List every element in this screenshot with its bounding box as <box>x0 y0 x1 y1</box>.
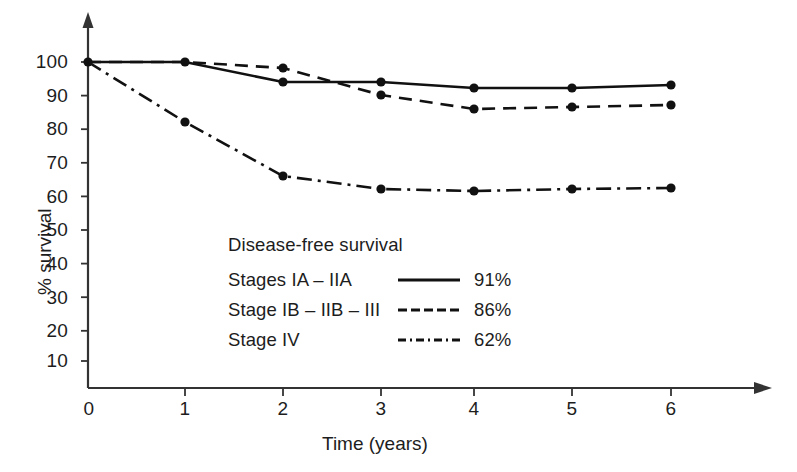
y-axis-title: % survival <box>34 208 56 295</box>
x-tick-label-1: 1 <box>170 398 200 420</box>
y-tick-label-90: 90 <box>22 85 68 107</box>
legend-line-sample-dashed-icon <box>396 301 462 319</box>
x-tick-label-6: 6 <box>656 398 686 420</box>
y-tick-label-10: 10 <box>22 350 68 372</box>
legend-row-stage-iv: Stage IV 62% <box>228 325 511 355</box>
legend-line-sample-solid-icon <box>396 271 462 289</box>
x-tick-label-0: 0 <box>74 398 104 420</box>
y-tick-label-20: 20 <box>22 320 68 342</box>
legend-label-stage-iv: Stage IV <box>228 329 396 351</box>
x-axis-ticks <box>185 388 671 396</box>
y-tick-label-100: 100 <box>22 51 68 73</box>
legend-value-stage-ib-iib-iii: 86% <box>474 299 511 321</box>
x-tick-label-3: 3 <box>366 398 396 420</box>
legend-value-stages-ia-iia: 91% <box>474 269 511 291</box>
y-tick-label-80: 80 <box>22 118 68 140</box>
survival-chart-figure: 100 90 80 70 60 50 40 30 20 10 0 1 2 3 4… <box>0 0 797 472</box>
y-tick-label-60: 60 <box>22 186 68 208</box>
legend-line-sample-dash-dot-icon <box>396 331 462 349</box>
legend: Disease-free survival Stages IA – IIA 91… <box>228 234 511 355</box>
x-axis-title: Time (years) <box>322 433 428 455</box>
x-tick-label-2: 2 <box>268 398 298 420</box>
legend-row-stage-ib-iib-iii: Stage IB – IIB – III 86% <box>228 295 511 325</box>
legend-row-stages-ia-iia: Stages IA – IIA 91% <box>228 265 511 295</box>
legend-label-stage-ib-iib-iii: Stage IB – IIB – III <box>228 299 396 321</box>
y-tick-label-70: 70 <box>22 152 68 174</box>
legend-title: Disease-free survival <box>228 234 511 256</box>
x-tick-label-5: 5 <box>557 398 587 420</box>
legend-label-stages-ia-iia: Stages IA – IIA <box>228 269 396 291</box>
x-tick-label-4: 4 <box>459 398 489 420</box>
legend-value-stage-iv: 62% <box>474 329 511 351</box>
x-axis <box>88 382 772 394</box>
